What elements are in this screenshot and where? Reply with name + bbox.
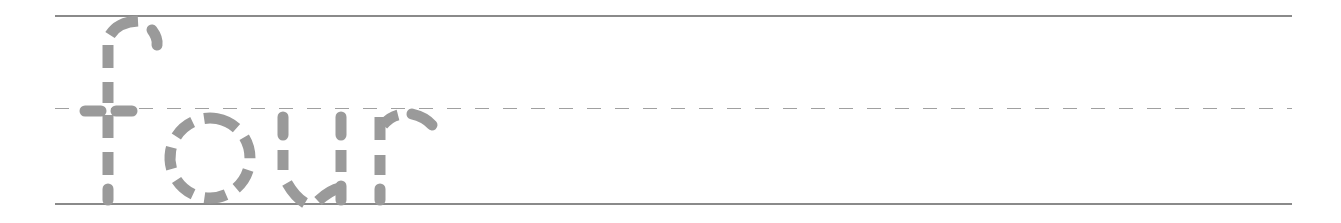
letter-f (85, 21, 157, 200)
letter-u (283, 117, 341, 203)
handwriting-worksheet: four (0, 0, 1341, 223)
letter-o (164, 112, 257, 205)
traceable-word-four (0, 0, 1341, 223)
letter-r (380, 114, 432, 200)
